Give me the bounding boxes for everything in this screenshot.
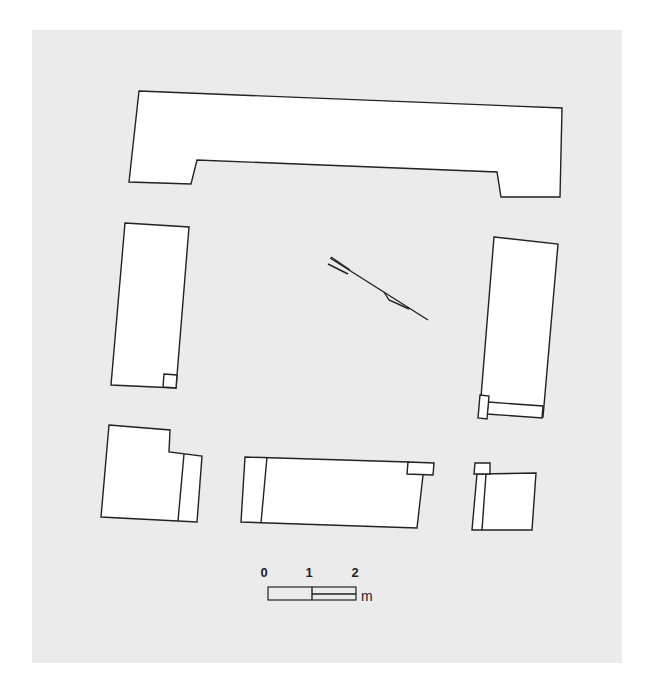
- bottom-right-block: [472, 463, 536, 530]
- bottom-left-block: [101, 425, 202, 522]
- left-upright-corner-square: [163, 374, 177, 388]
- north-arrow-icon: [328, 257, 428, 320]
- scale-label-1: 1: [305, 565, 312, 580]
- left-upright: [111, 223, 189, 388]
- plan-drawing: 0 1 2 m: [0, 0, 655, 693]
- top-slab: [129, 91, 562, 197]
- scale-bar: 0 1 2 m: [260, 565, 372, 604]
- scale-label-2: 2: [351, 565, 358, 580]
- scale-label-0: 0: [260, 565, 267, 580]
- bottom-middle-block: [241, 457, 434, 528]
- bottom-middle-corner-rect: [407, 462, 434, 475]
- scale-unit: m: [361, 588, 373, 604]
- right-upright: [478, 237, 558, 419]
- bottom-right-corner-rect: [474, 463, 490, 474]
- right-upright-foot: [478, 395, 489, 419]
